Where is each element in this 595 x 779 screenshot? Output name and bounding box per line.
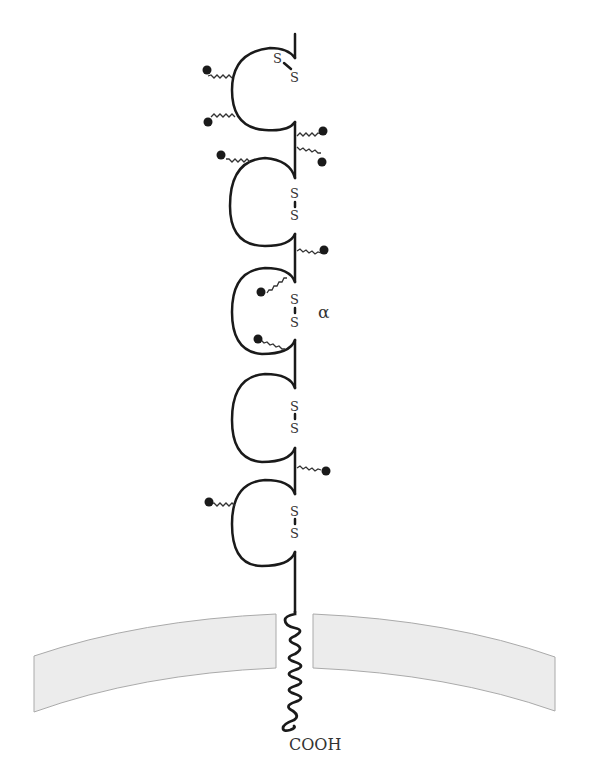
domain-loop-1 (232, 48, 295, 130)
disulfide-bond-1 (284, 63, 291, 69)
sulfur-label: S (290, 70, 299, 85)
sulfur-label: S (290, 292, 299, 307)
alpha-chain-label: α (318, 302, 330, 322)
sulfur-label: S (290, 399, 299, 414)
glycan-head (205, 498, 214, 507)
sulfur-label: S (290, 186, 299, 201)
transmembrane-coil (283, 612, 301, 731)
glycan-chain (261, 340, 285, 349)
glycan-head (204, 118, 213, 127)
domain-loop-3 (232, 268, 295, 354)
glycan-chain (211, 114, 235, 117)
membrane-right (313, 614, 555, 711)
glycan-chain (208, 75, 232, 78)
sulfur-label: S (290, 421, 299, 436)
glycan-head (257, 288, 266, 297)
diagram-canvas: S S S S S S S S S S α COOH (0, 0, 595, 779)
glycan-head (217, 151, 226, 160)
cooh-terminus-label: COOH (289, 735, 341, 754)
glycan-chain (297, 466, 321, 471)
glycan-head (322, 467, 331, 476)
glycan-head (319, 127, 328, 136)
sulfur-label: S (290, 526, 299, 541)
glycan-chain (267, 278, 287, 293)
sulfur-label: S (290, 208, 299, 223)
glycan-chain (297, 133, 321, 136)
glycan-chain (226, 159, 250, 162)
sulfur-label: S (290, 504, 299, 519)
sulfur-label: S (273, 51, 282, 66)
glycan-chain (211, 503, 235, 506)
glycan-head (254, 335, 263, 344)
domain-loop-2 (230, 158, 295, 246)
glycan-head (320, 246, 329, 255)
glycan-head (318, 158, 327, 167)
sulfur-label: S (290, 315, 299, 330)
domain-loop-5 (232, 480, 295, 566)
domain-loop-4 (232, 374, 295, 462)
glycan-head (203, 66, 212, 75)
glycan-chain (297, 249, 321, 254)
glycan-chain (297, 147, 321, 153)
membrane-left (34, 614, 276, 712)
